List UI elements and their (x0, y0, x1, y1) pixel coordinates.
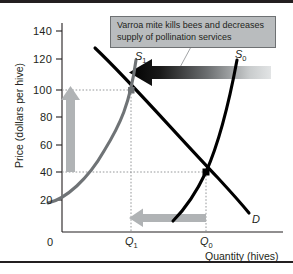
curve-label-s1: S1 (135, 50, 147, 65)
y-tick-140: 140 (33, 25, 52, 37)
x-tick-q1-subscript: 1 (134, 241, 138, 250)
curve-label-d: D (252, 213, 260, 225)
price-rise-arrow (61, 86, 80, 172)
x-tick-q1-letter: Q (125, 235, 134, 247)
supply-curve-new (48, 60, 136, 203)
x-tick-zero: 0 (47, 236, 53, 248)
annotation-text: Varroa mite kills bees and decreases sup… (117, 20, 264, 42)
y-tick-40: 40 (40, 166, 53, 178)
equilibrium-point-new (128, 87, 135, 94)
x-tick-q0-letter: Q (200, 235, 209, 247)
equilibrium-point-original (203, 169, 210, 176)
guide-lines (62, 90, 206, 232)
curve-label-s0-subscript: 0 (242, 54, 246, 63)
x-tick-q0-subscript: 0 (209, 241, 213, 250)
x-axis-title: Quantity (hives) (205, 250, 279, 262)
y-tick-60: 60 (40, 139, 53, 151)
annotation-callout: Varroa mite kills bees and decreases sup… (110, 16, 276, 48)
y-tick-20: 20 (40, 194, 53, 206)
curve-label-s0: S0 (235, 48, 247, 63)
y-tick-120: 120 (33, 53, 52, 65)
y-tick-80: 80 (40, 111, 53, 123)
x-tick-q1: Q1 (125, 235, 138, 250)
quantity-fall-arrow (129, 209, 206, 228)
curve-label-s1-subscript: 1 (142, 56, 146, 65)
figure-panel: Varroa mite kills bees and decreases sup… (0, 0, 293, 274)
supply-shift-arrow (129, 59, 271, 86)
y-axis-title: Price (dollars per hive) (13, 68, 25, 168)
x-tick-q0: Q0 (200, 235, 213, 250)
y-tick-100: 100 (33, 84, 52, 96)
